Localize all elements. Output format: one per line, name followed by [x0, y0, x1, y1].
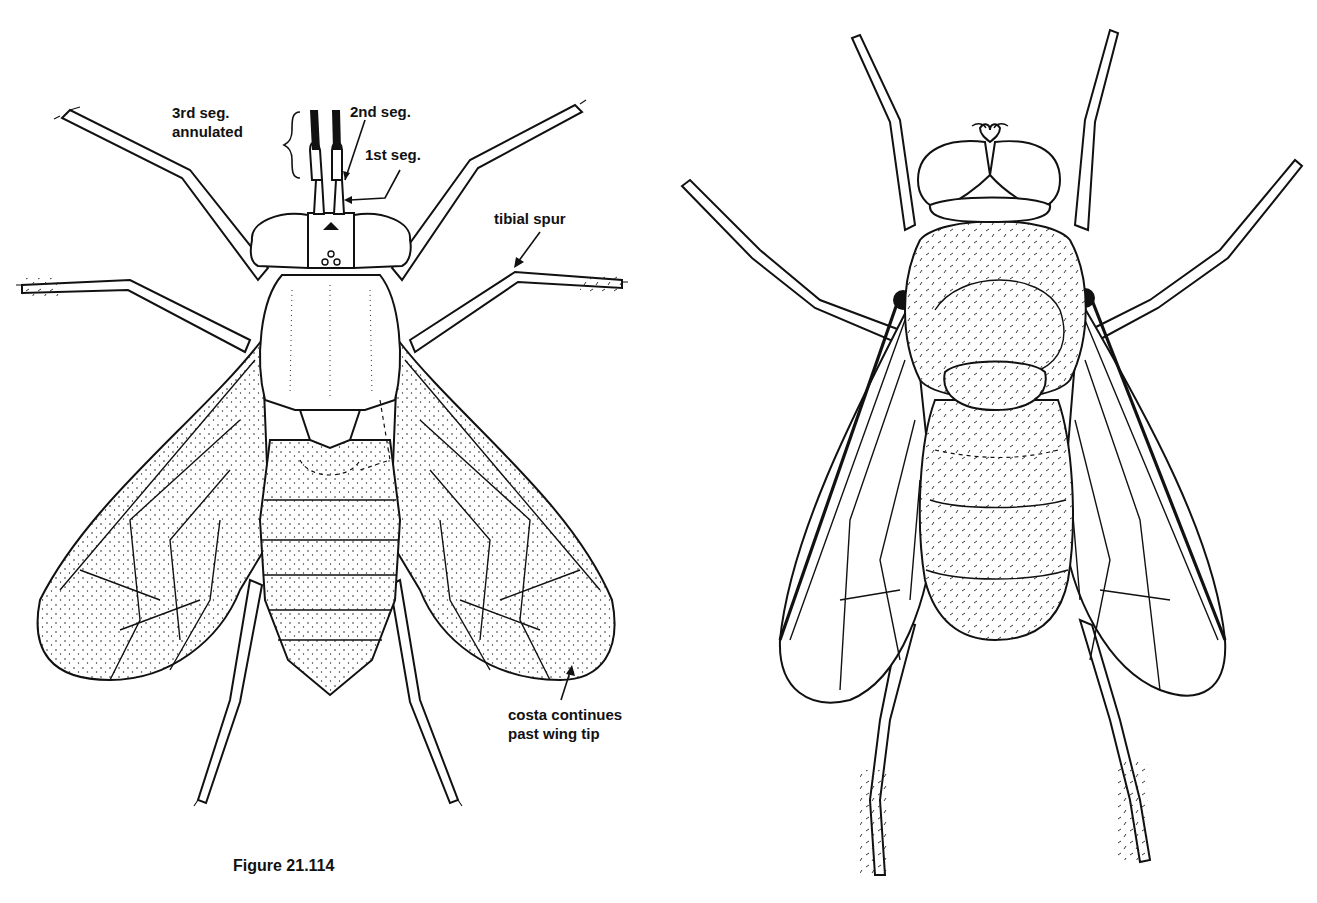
left-fly-drawing [16, 100, 628, 806]
right-fly-abdomen [920, 400, 1073, 640]
tibial-spur-pointer [518, 232, 540, 262]
third-segment-brace [284, 112, 300, 178]
second-segment-pointer [345, 120, 365, 180]
label-tibial-spur: tibial spur [494, 209, 566, 228]
label-costa-line2: past wing tip [508, 724, 622, 743]
label-costa: costa continues past wing tip [508, 705, 622, 743]
label-second-segment: 2nd seg. [350, 102, 411, 121]
right-fly-thorax [905, 221, 1086, 410]
figure-caption: Figure 21.114 [233, 857, 334, 875]
label-costa-line1: costa continues [508, 705, 622, 724]
left-fly-abdomen [260, 440, 400, 695]
left-fly-antennae [310, 110, 344, 214]
label-third-segment-line2: annulated [172, 122, 243, 141]
label-third-segment-line1: 3rd seg. [172, 103, 243, 122]
label-first-segment: 1st seg. [365, 145, 421, 164]
right-fly-head [918, 124, 1060, 222]
first-segment-pointer [350, 170, 400, 200]
right-fly-drawing [682, 30, 1302, 875]
left-fly-head [251, 213, 411, 268]
label-third-segment: 3rd seg. annulated [172, 103, 243, 141]
